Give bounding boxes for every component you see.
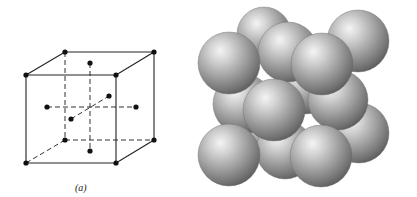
edge [116, 140, 154, 163]
edge [26, 52, 65, 75]
face-center-atom [87, 148, 92, 153]
caption-a: (a) [75, 182, 87, 193]
corner-atom [23, 160, 28, 165]
face-center-atom [87, 60, 92, 65]
sphere-front-top-right [291, 33, 353, 95]
corner-atom [62, 49, 67, 54]
corner-atom [151, 137, 156, 142]
corner-atom [151, 49, 156, 54]
edge [116, 52, 154, 75]
corner-atom [113, 160, 118, 165]
face-center-atom [106, 93, 111, 98]
corner-atom [23, 72, 28, 77]
sphere-front-bottom-left [198, 124, 260, 186]
fcc-figure [0, 0, 417, 197]
hard-sphere-model [198, 7, 389, 187]
face-center-atom [68, 116, 73, 121]
hidden-edge [26, 140, 65, 163]
unit-cell-diagram [23, 49, 156, 165]
face-center-atom [133, 104, 138, 109]
face-center-atom [44, 104, 49, 109]
sphere-front-top-left [198, 32, 260, 94]
sphere-front-face [243, 79, 305, 141]
corner-atom [113, 72, 118, 77]
sphere-front-bottom-right [290, 125, 352, 187]
corner-atom [62, 137, 67, 142]
